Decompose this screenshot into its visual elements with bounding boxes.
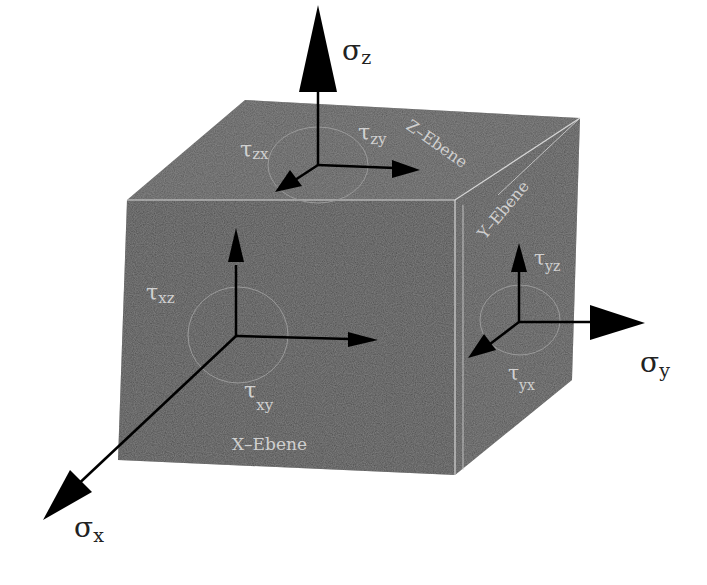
- sigma-y-arrowhead: [590, 305, 645, 340]
- label-sigma-z: σz: [342, 34, 371, 68]
- sigma-z-arrowhead: [299, 5, 337, 92]
- label-sigma-x: σx: [74, 511, 104, 546]
- label-sigma-y: σy: [640, 346, 670, 381]
- label-x-plane: X–Ebene: [232, 434, 307, 454]
- stress-cube-diagram: σz σy σx τzx τzy Z–Ebene τxz τxy X–Ebene…: [0, 0, 707, 585]
